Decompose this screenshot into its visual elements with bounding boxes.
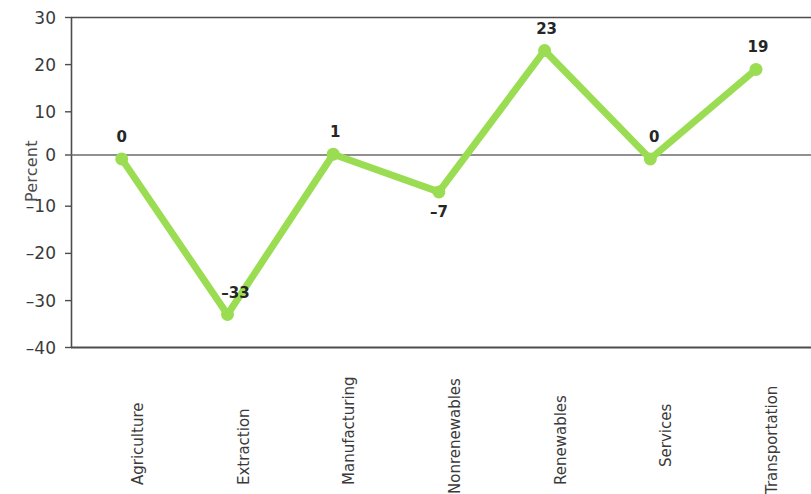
data-point: [327, 148, 340, 161]
y-tick-label: 30: [0, 8, 56, 28]
x-tick-label-manufacturing: Manufacturing: [340, 376, 358, 485]
x-tick-label-services: Services: [657, 404, 675, 467]
y-tick-label: 10: [0, 102, 56, 122]
data-label-extraction: –33: [221, 284, 249, 302]
data-line: [122, 51, 756, 315]
data-point: [750, 63, 763, 76]
data-point: [432, 185, 445, 198]
data-point: [538, 44, 551, 57]
data-label-manufacturing: 1: [330, 123, 340, 141]
y-tick-label: –10: [0, 196, 56, 216]
data-markers: [115, 44, 762, 321]
data-point: [115, 152, 128, 165]
y-tick-label: 0: [0, 145, 56, 165]
y-tick-marks: [65, 18, 72, 348]
x-tick-label-nonrenewables: Nonrenewables: [446, 378, 464, 494]
data-point: [644, 152, 657, 165]
data-label-nonrenewables: –7: [430, 203, 448, 221]
plot-area: [0, 0, 811, 494]
data-label-renewables: 23: [536, 20, 557, 38]
y-tick-label: 20: [0, 55, 56, 75]
x-tick-label-agriculture: Agriculture: [129, 403, 147, 486]
data-point: [221, 308, 234, 321]
data-label-agriculture: 0: [116, 128, 126, 146]
x-tick-label-transportation: Transportation: [763, 386, 781, 494]
y-tick-label: –40: [0, 338, 56, 358]
x-tick-label-renewables: Renewables: [552, 395, 570, 485]
x-tick-label-extraction: Extraction: [235, 408, 253, 485]
y-tick-label: –30: [0, 291, 56, 311]
line-chart: Percent: [0, 0, 811, 494]
y-tick-label: –20: [0, 243, 56, 263]
data-label-services: 0: [649, 128, 659, 146]
data-label-transportation: 19: [748, 38, 769, 56]
